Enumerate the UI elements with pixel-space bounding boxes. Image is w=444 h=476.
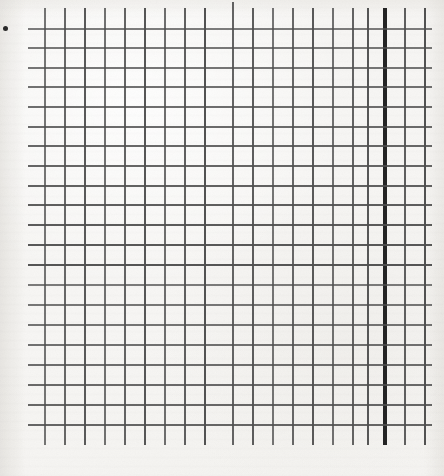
vertical-gridline <box>144 8 146 445</box>
vertical-gridline <box>292 8 294 445</box>
vertical-gridline <box>124 8 126 445</box>
horizontal-gridline <box>28 384 432 386</box>
horizontal-gridline <box>28 185 432 187</box>
horizontal-gridline <box>28 145 432 147</box>
horizontal-gridline <box>28 165 432 167</box>
horizontal-gridline <box>28 244 432 246</box>
vertical-gridline <box>252 8 254 445</box>
horizontal-gridline <box>28 364 432 366</box>
horizontal-gridline <box>28 224 432 226</box>
heavy-vertical-gridline <box>383 8 386 445</box>
vertical-gridline <box>164 8 166 445</box>
vertical-gridline <box>204 8 206 445</box>
horizontal-gridline <box>28 404 432 406</box>
vertical-gridline <box>104 8 106 445</box>
vertical-gridline <box>184 8 186 445</box>
horizontal-gridline <box>28 28 432 30</box>
horizontal-gridline <box>28 126 432 128</box>
vertical-gridline <box>404 8 406 445</box>
vertical-gridline <box>424 8 426 445</box>
horizontal-gridline <box>28 284 432 286</box>
vertical-gridline <box>352 8 354 445</box>
horizontal-gridline <box>28 344 432 346</box>
graph-paper-sheet <box>0 0 444 476</box>
horizontal-gridline <box>28 264 432 266</box>
vertical-gridline <box>84 8 86 445</box>
vertical-gridline <box>332 8 334 445</box>
vertical-gridline <box>272 8 274 445</box>
vertical-gridline <box>367 8 369 445</box>
vertical-gridline <box>44 8 46 445</box>
vertical-gridline <box>312 8 314 445</box>
horizontal-gridline <box>28 424 432 426</box>
stray-ink-dot-mark <box>3 26 8 31</box>
horizontal-gridline <box>28 47 432 49</box>
horizontal-gridline <box>28 86 432 88</box>
horizontal-gridline <box>28 67 432 69</box>
horizontal-gridline <box>28 204 432 206</box>
grid-lines <box>0 0 444 476</box>
horizontal-gridline <box>28 324 432 326</box>
vertical-gridline <box>64 8 66 445</box>
horizontal-gridline <box>28 106 432 108</box>
horizontal-gridline <box>28 304 432 306</box>
